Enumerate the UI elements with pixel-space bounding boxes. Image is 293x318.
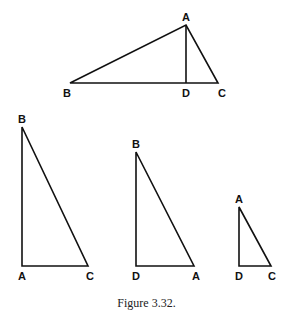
figure-diagram: A B D C B A C B D A A D C	[0, 0, 293, 318]
label-top-A: A	[182, 11, 190, 23]
label-right-A: A	[235, 193, 243, 205]
label-top-D: D	[182, 87, 190, 99]
triangle-BAC	[22, 127, 88, 266]
label-mid-D: D	[132, 270, 140, 282]
triangle-ADC	[239, 207, 271, 266]
label-right-D: D	[235, 270, 243, 282]
label-mid-B: B	[132, 138, 140, 150]
figure-caption: Figure 3.32.	[0, 296, 293, 311]
label-mid-A: A	[192, 270, 200, 282]
label-top-B: B	[63, 87, 71, 99]
triangle-BDA	[136, 152, 194, 266]
label-left-A: A	[18, 270, 26, 282]
label-top-C: C	[218, 87, 226, 99]
label-right-C: C	[268, 270, 276, 282]
top-triangle	[70, 25, 218, 83]
label-left-C: C	[86, 270, 94, 282]
label-left-B: B	[18, 113, 26, 125]
